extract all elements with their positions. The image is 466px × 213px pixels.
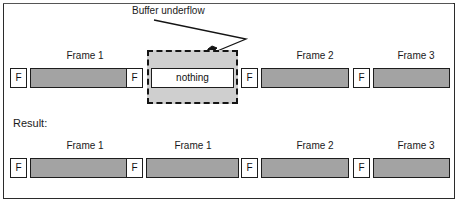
- result-slot-1-flag-box: F: [10, 158, 27, 178]
- result-slot-1-payload: [30, 158, 130, 178]
- top-slot-1-flag-box: F: [10, 68, 27, 88]
- result-slot-1-caption: Frame 1: [40, 140, 130, 152]
- buffer-underflow-figure: Buffer underflow Frame 1 F F nothing Fra…: [0, 0, 466, 213]
- result-slot-3-flag-box: F: [241, 158, 258, 178]
- top-slot-4-caption: Frame 3: [373, 50, 459, 62]
- top-slot-3-caption: Frame 2: [270, 50, 360, 62]
- top-slot-4-flag-box: F: [353, 68, 370, 88]
- result-slot-4-flag-box: F: [353, 158, 370, 178]
- result-label: Result:: [13, 117, 47, 130]
- buffer-underflow-annotation-label: Buffer underflow: [132, 5, 205, 17]
- result-slot-3-caption: Frame 2: [270, 140, 360, 152]
- result-slot-4-payload: [373, 158, 450, 178]
- top-slot-3-payload: [261, 68, 349, 88]
- top-slot-3-flag-box: F: [241, 68, 258, 88]
- result-slot-2-flag-box: F: [126, 158, 143, 178]
- top-slot-1-payload: [30, 68, 130, 88]
- top-slot-1-caption: Frame 1: [40, 50, 130, 62]
- result-slot-2-caption: Frame 1: [148, 140, 238, 152]
- top-slot-2-nothing-box: nothing: [151, 68, 234, 88]
- top-slot-2-flag-box: F: [126, 68, 143, 88]
- top-slot-4-payload: [373, 68, 450, 88]
- result-slot-3-payload: [261, 158, 349, 178]
- result-slot-4-caption: Frame 3: [373, 140, 459, 152]
- result-slot-2-payload: [146, 158, 239, 178]
